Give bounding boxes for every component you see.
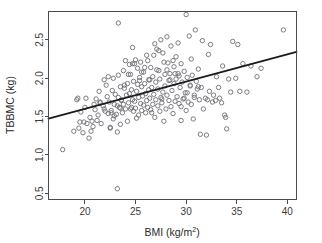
data-point [138, 60, 142, 64]
data-point [134, 89, 138, 93]
data-point [211, 93, 215, 97]
data-point [94, 97, 98, 101]
data-point [185, 75, 189, 79]
x-tick-label: 30 [181, 206, 193, 217]
data-point [207, 89, 211, 93]
y-tick-label: 2.5 [34, 33, 45, 47]
data-point [104, 83, 108, 87]
data-point [154, 98, 158, 102]
y-tick-label: 1.0 [34, 148, 45, 162]
data-point [178, 85, 182, 89]
data-point [168, 71, 172, 75]
y-tick-label: 2.0 [34, 71, 45, 85]
data-point [123, 107, 127, 111]
data-point [137, 78, 141, 82]
data-point [131, 79, 135, 83]
data-point [151, 102, 155, 106]
x-axis-label: BMI (kg/m2) [144, 226, 199, 238]
data-point [125, 119, 129, 123]
data-point [216, 85, 220, 89]
data-point [135, 66, 139, 70]
data-point [148, 96, 152, 100]
data-point [281, 28, 285, 32]
data-point [143, 111, 147, 115]
data-point [144, 98, 148, 102]
data-point [179, 118, 183, 122]
data-point [197, 98, 201, 102]
data-point [97, 89, 101, 93]
y-axis-label: TBBMC (kg) [4, 76, 16, 134]
data-point [214, 75, 218, 79]
data-point [259, 66, 263, 70]
data-point [234, 76, 238, 80]
data-point [115, 130, 119, 134]
data-point [201, 107, 205, 111]
data-point [193, 28, 197, 32]
data-point [219, 101, 223, 105]
data-point [153, 115, 157, 119]
data-point [121, 102, 125, 106]
data-point [187, 34, 191, 38]
data-point [91, 124, 95, 128]
data-point [164, 107, 168, 111]
data-point [208, 42, 212, 46]
data-point [60, 147, 64, 151]
x-tick-label: 40 [282, 206, 294, 217]
data-point [159, 38, 163, 42]
data-point [198, 132, 202, 136]
data-point [116, 73, 120, 77]
data-point [224, 127, 228, 131]
y-tick-label: 0.5 [34, 186, 45, 200]
data-point [144, 53, 148, 57]
data-point [189, 57, 193, 61]
data-point [105, 94, 109, 98]
data-point [142, 65, 146, 69]
data-point [220, 64, 224, 68]
data-point [226, 77, 230, 81]
data-point [236, 42, 240, 46]
x-tick-label: 25 [130, 206, 142, 217]
data-point [184, 108, 188, 112]
data-point [90, 119, 94, 123]
data-point [196, 67, 200, 71]
data-point [238, 89, 242, 93]
data-point [152, 92, 156, 96]
data-point [162, 119, 166, 123]
data-point [123, 58, 127, 62]
data-point [158, 77, 162, 81]
data-point [184, 12, 188, 16]
data-point [182, 69, 186, 73]
data-point [118, 122, 122, 126]
data-point [200, 38, 204, 42]
data-point [95, 118, 99, 122]
data-point [126, 101, 130, 105]
x-tick-label: 20 [79, 206, 91, 217]
data-point [116, 21, 120, 25]
data-point [171, 58, 175, 62]
data-point [146, 105, 150, 109]
data-point [102, 78, 106, 82]
data-point [245, 90, 249, 94]
data-point [204, 133, 208, 137]
data-point [175, 94, 179, 98]
data-point [170, 88, 174, 92]
data-point [167, 98, 171, 102]
data-point [217, 96, 221, 100]
data-point [163, 72, 167, 76]
data-point [156, 104, 160, 108]
y-tick-label: 1.5 [34, 109, 45, 123]
data-point [142, 81, 146, 85]
data-point [191, 117, 195, 121]
data-point [106, 111, 110, 115]
data-point [165, 93, 169, 97]
data-point [99, 121, 103, 125]
data-point [206, 52, 210, 56]
x-tick-label: 35 [231, 206, 243, 217]
data-point [179, 61, 183, 65]
scatter-plot-figure: 2025303540 0.51.01.52.02.5 BMI (kg/m2) T… [0, 0, 322, 243]
data-point [120, 111, 124, 115]
data-point [110, 88, 114, 92]
data-point [190, 73, 194, 77]
data-point [150, 85, 154, 89]
data-point [130, 45, 134, 49]
